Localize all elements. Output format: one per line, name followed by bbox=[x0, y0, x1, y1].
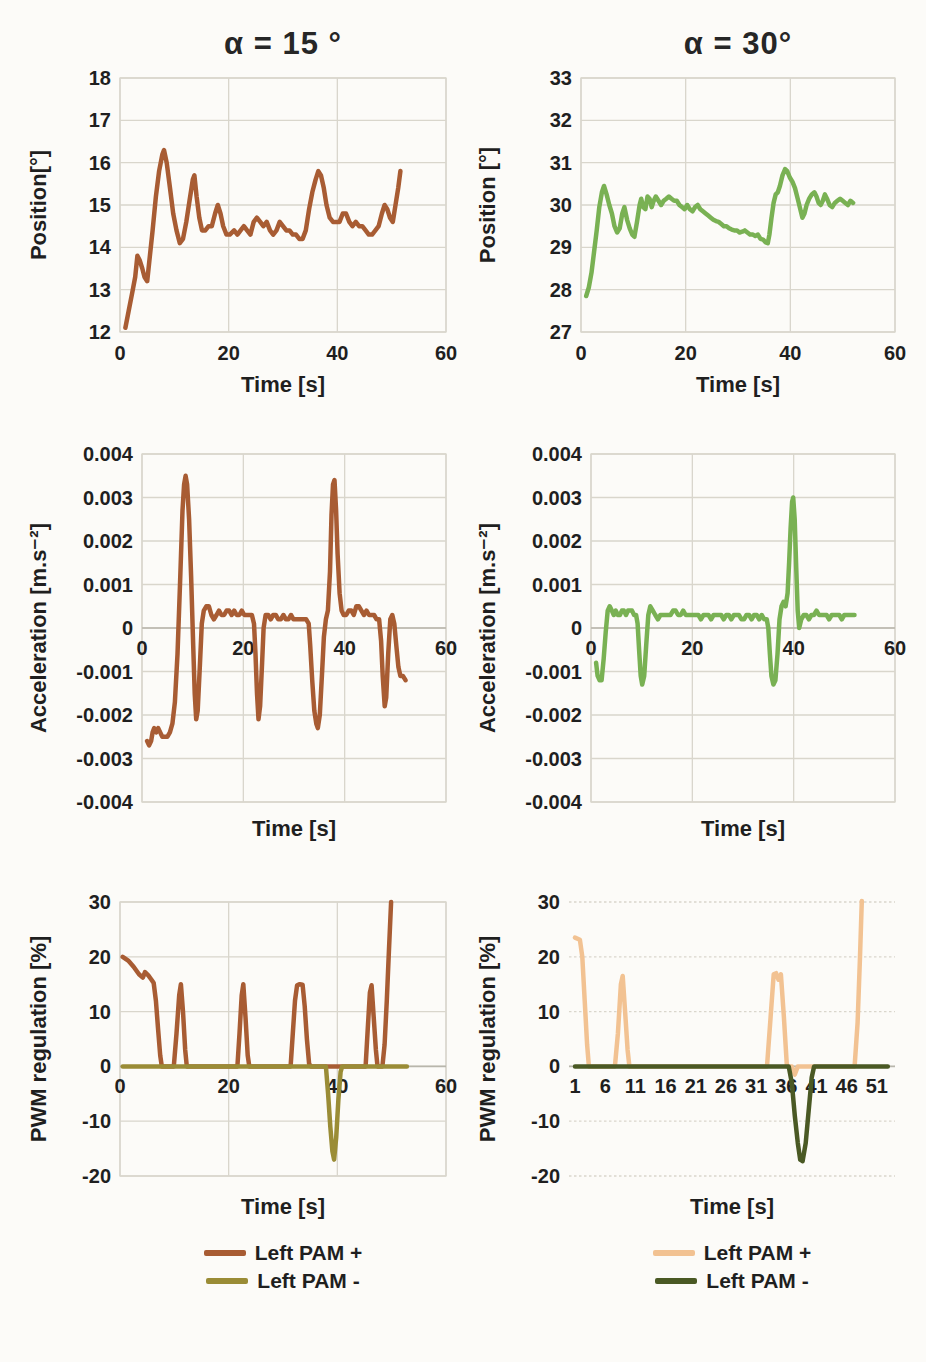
y-tick-label: 0 bbox=[571, 617, 582, 639]
y-tick-label: -0.004 bbox=[525, 791, 583, 813]
x-tick-label: 6 bbox=[600, 1075, 611, 1097]
legend-entry-left-pam-plus: Left PAM + bbox=[653, 1242, 812, 1263]
y-tick-label: -0.003 bbox=[76, 748, 133, 770]
y-tick-label: 13 bbox=[89, 279, 111, 301]
chart-title-alpha-15: α = 15 ° bbox=[120, 22, 446, 66]
x-tick-label: 11 bbox=[625, 1075, 646, 1097]
y-tick-label: 18 bbox=[89, 67, 111, 89]
y-tick-label: 20 bbox=[89, 946, 111, 968]
x-tick-label: 20 bbox=[675, 342, 697, 364]
line-chart-svg: 272829303132330204060Position [°]Time [s… bbox=[469, 66, 917, 404]
x-tick-label: 40 bbox=[326, 342, 348, 364]
y-tick-label: 30 bbox=[550, 194, 572, 216]
y-tick-label: 28 bbox=[550, 279, 572, 301]
chart-acceleration-alpha-30: 0.0040.0030.0020.0010-0.001-0.002-0.003-… bbox=[469, 444, 918, 848]
legend-swatch-left-pam-plus bbox=[204, 1250, 246, 1256]
x-axis-label: Time [s] bbox=[696, 372, 780, 397]
x-tick-label: 60 bbox=[435, 1075, 457, 1097]
x-tick-label: 1 bbox=[569, 1075, 580, 1097]
y-tick-label: -20 bbox=[531, 1165, 560, 1187]
y-tick-label: 0.003 bbox=[83, 487, 133, 509]
y-tick-label: 0.004 bbox=[83, 444, 134, 465]
legend-entry-left-pam-minus: Left PAM - bbox=[206, 1270, 359, 1291]
y-tick-label: 15 bbox=[89, 194, 111, 216]
cell-pwm-alpha-30: -20-10010203016111621263136414651PWM reg… bbox=[469, 888, 918, 1291]
legend-swatch-left-pam-minus bbox=[655, 1278, 697, 1284]
x-tick-label: 0 bbox=[575, 342, 586, 364]
legend-label-left-pam-plus: Left PAM + bbox=[704, 1242, 812, 1263]
x-axis-label: Time [s] bbox=[241, 1194, 325, 1219]
y-tick-label: 30 bbox=[89, 891, 111, 913]
chart-acceleration-alpha-15: 0.0040.0030.0020.0010-0.001-0.002-0.003-… bbox=[20, 444, 469, 848]
legend-pwm-alpha-15: Left PAM + Left PAM - bbox=[120, 1242, 446, 1291]
y-tick-label: -20 bbox=[82, 1165, 111, 1187]
y-tick-label: -0.002 bbox=[525, 704, 582, 726]
series-acceleration bbox=[147, 476, 405, 746]
chart-pwm-alpha-30: -20-10010203016111621263136414651PWM reg… bbox=[469, 888, 918, 1226]
legend-label-left-pam-plus: Left PAM + bbox=[255, 1242, 363, 1263]
y-tick-label: -0.003 bbox=[525, 748, 582, 770]
y-tick-label: 0.001 bbox=[532, 574, 582, 596]
y-tick-label: -10 bbox=[531, 1110, 560, 1132]
y-tick-label: 29 bbox=[550, 236, 572, 258]
x-tick-label: 60 bbox=[884, 342, 906, 364]
x-tick-label: 26 bbox=[715, 1075, 737, 1097]
cell-position-alpha-30: α = 30° 272829303132330204060Position [°… bbox=[469, 22, 918, 404]
x-axis-label: Time [s] bbox=[241, 372, 325, 397]
y-tick-label: 30 bbox=[538, 891, 560, 913]
line-chart-svg: 0.0040.0030.0020.0010-0.001-0.002-0.003-… bbox=[469, 444, 917, 848]
x-tick-label: 31 bbox=[745, 1075, 767, 1097]
x-axis-label: Time [s] bbox=[690, 1194, 774, 1219]
y-axis-label: Position [°] bbox=[475, 147, 500, 263]
y-tick-label: 32 bbox=[550, 109, 572, 131]
y-tick-label: -0.002 bbox=[76, 704, 133, 726]
y-tick-label: 0 bbox=[100, 1055, 111, 1077]
charts-grid: α = 15 ° 121314151617180204060Position[°… bbox=[20, 22, 926, 1291]
chart-title-alpha-30: α = 30° bbox=[581, 22, 895, 66]
x-tick-label: 0 bbox=[136, 637, 147, 659]
y-axis-label: Position[°] bbox=[26, 150, 51, 260]
legend-entry-left-pam-plus: Left PAM + bbox=[204, 1242, 363, 1263]
x-tick-label: 0 bbox=[585, 637, 596, 659]
series-acceleration bbox=[596, 498, 854, 685]
legend-swatch-left-pam-plus bbox=[653, 1250, 695, 1256]
y-tick-label: 0.004 bbox=[532, 444, 583, 465]
y-tick-label: -10 bbox=[82, 1110, 111, 1132]
y-tick-label: -0.004 bbox=[76, 791, 134, 813]
y-tick-label: 0.003 bbox=[532, 487, 582, 509]
legend-pwm-alpha-30: Left PAM + Left PAM - bbox=[569, 1242, 895, 1291]
y-tick-label: 0 bbox=[549, 1055, 560, 1077]
y-tick-label: 10 bbox=[538, 1001, 560, 1023]
x-tick-label: 51 bbox=[866, 1075, 888, 1097]
figure-page: α = 15 ° 121314151617180204060Position[°… bbox=[0, 0, 926, 1362]
y-tick-label: 10 bbox=[89, 1001, 111, 1023]
cell-acceleration-alpha-30: 0.0040.0030.0020.0010-0.001-0.002-0.003-… bbox=[469, 444, 918, 848]
x-tick-label: 60 bbox=[884, 637, 906, 659]
cell-acceleration-alpha-15: 0.0040.0030.0020.0010-0.001-0.002-0.003-… bbox=[20, 444, 469, 848]
x-tick-label: 20 bbox=[218, 342, 240, 364]
plot-border bbox=[120, 902, 446, 1176]
x-tick-label: 20 bbox=[681, 637, 703, 659]
legend-swatch-left-pam-minus bbox=[206, 1278, 248, 1284]
y-axis-label: Acceleration [m.s⁻²] bbox=[26, 523, 51, 733]
x-tick-label: 0 bbox=[114, 1075, 125, 1097]
series-position bbox=[125, 150, 400, 328]
x-tick-label: 40 bbox=[783, 637, 805, 659]
legend-label-left-pam-minus: Left PAM - bbox=[257, 1270, 359, 1291]
y-tick-label: 0 bbox=[122, 617, 133, 639]
y-tick-label: 0.002 bbox=[532, 530, 582, 552]
x-tick-label: 46 bbox=[836, 1075, 858, 1097]
legend-entry-left-pam-minus: Left PAM - bbox=[655, 1270, 808, 1291]
y-tick-label: 12 bbox=[89, 321, 111, 343]
x-tick-label: 60 bbox=[435, 342, 457, 364]
line-chart-svg: -20-1001020300204060PWM regulation [%]Ti… bbox=[20, 888, 468, 1226]
y-tick-label: 14 bbox=[89, 236, 112, 258]
y-axis-label: PWM regulation [%] bbox=[26, 936, 51, 1143]
y-tick-label: -0.001 bbox=[525, 661, 582, 683]
x-tick-label: 21 bbox=[685, 1075, 707, 1097]
line-chart-svg: 121314151617180204060Position[°]Time [s] bbox=[20, 66, 468, 404]
x-tick-label: 40 bbox=[779, 342, 801, 364]
y-tick-label: -0.001 bbox=[76, 661, 133, 683]
chart-position-alpha-15: 121314151617180204060Position[°]Time [s] bbox=[20, 66, 469, 404]
line-chart-svg: 0.0040.0030.0020.0010-0.001-0.002-0.003-… bbox=[20, 444, 468, 848]
